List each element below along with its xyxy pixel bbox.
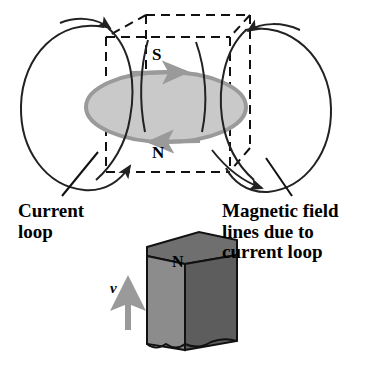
current-direction-arrow-top (130, 72, 186, 73)
field-line-right-outer-upper (245, 28, 331, 192)
callout-current-loop: Current loop (18, 201, 84, 242)
box-edge-top-left-diagonal (106, 15, 146, 37)
velocity-symbol-label: v (110, 280, 117, 296)
callout-magnetic-field-lines: Magnetic field lines due to current loop (222, 201, 339, 263)
bar-magnet-pole-label: N (172, 253, 184, 270)
loop-north-pole-label: N (152, 144, 164, 162)
bar-magnet-side-face (185, 255, 237, 350)
current-direction-arrow-bottom (150, 141, 200, 142)
loop-south-pole-label: S (152, 46, 161, 64)
figure-canvas: S N N v Current loop Magnetic field line… (0, 0, 381, 371)
magnetic-field-diagram (0, 0, 381, 371)
box-edge-top-right-diagonal (230, 15, 250, 37)
